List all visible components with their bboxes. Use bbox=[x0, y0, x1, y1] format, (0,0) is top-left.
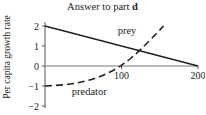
y-tick-label: −1 bbox=[28, 81, 39, 92]
prey-label: prey bbox=[118, 25, 137, 36]
y-tick-label: 2 bbox=[34, 21, 39, 32]
plot-area: 210−1−2100200preypredator bbox=[0, 0, 205, 115]
y-tick-label: 0 bbox=[34, 61, 39, 72]
predator-label: predator bbox=[72, 86, 107, 97]
x-tick-label: 200 bbox=[191, 70, 206, 81]
y-tick-label: 1 bbox=[34, 41, 39, 52]
x-tick-label: 100 bbox=[114, 70, 129, 81]
predator-line bbox=[45, 26, 164, 86]
y-tick-label: −2 bbox=[28, 101, 39, 112]
